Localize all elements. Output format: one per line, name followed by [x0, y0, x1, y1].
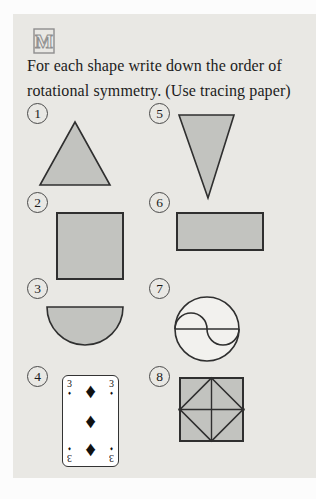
m-logo-icon: M [33, 28, 55, 55]
right-midpoint-dot [241, 408, 245, 412]
item-number-5: 5 [149, 103, 170, 124]
instruction-text: For each shape write down the order of r… [27, 53, 309, 103]
shape-6-rectangle [175, 211, 265, 253]
diamond-pip-icon: ♦ [63, 381, 118, 402]
shape-7-circle-s-curve [172, 294, 242, 364]
m-logo-letter: M [35, 31, 53, 52]
instruction-line-2: rotational symmetry. (Use tracing paper) [27, 78, 309, 103]
item-number-4: 4 [27, 366, 48, 387]
shape-8-square-diamond-pattern [178, 376, 246, 444]
item-number-8: 8 [149, 366, 170, 387]
shape-5-inverted-triangle [176, 112, 238, 202]
item-number-7: 7 [149, 278, 170, 299]
diamond-pip-icon: ♦ [63, 411, 118, 432]
item-number-6: 6 [149, 192, 170, 213]
shape-3-semicircle [45, 304, 125, 349]
shape-2-square [55, 211, 125, 281]
diamond-pip-icon: ♦ [63, 439, 118, 460]
instruction-line-1: For each shape write down the order of [27, 53, 309, 78]
item-number-2: 2 [27, 192, 48, 213]
left-midpoint-dot [178, 408, 182, 412]
shape-4-playing-card: 3 ♦ 3 ♦ 3 ♦ 3 ♦ ♦ ♦ ♦ [62, 375, 119, 467]
shape-1-triangle [36, 118, 114, 189]
item-number-3: 3 [27, 278, 48, 299]
